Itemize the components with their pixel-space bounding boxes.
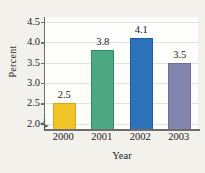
y-tick-mark	[41, 103, 45, 104]
x-tick-label: 2001	[80, 132, 124, 143]
bar	[91, 50, 114, 130]
y-tick-mark	[41, 63, 45, 64]
x-tick-label: 2000	[41, 132, 85, 143]
y-tick-mark	[41, 83, 45, 84]
y-axis-title: Percent	[7, 34, 18, 90]
y-tick-mark	[41, 42, 45, 43]
axis-break-icon	[40, 119, 49, 130]
y-tick-mark	[41, 22, 45, 23]
chart-title	[28, 0, 178, 3]
y-tick-label: 2.0	[27, 119, 40, 130]
bar-value-label: 2.5	[44, 90, 84, 101]
bar	[130, 38, 153, 130]
bar-value-label: 4.1	[121, 25, 161, 36]
y-tick-label: 4.5	[27, 17, 40, 28]
x-axis-title: Year	[44, 150, 200, 161]
bar-value-label: 3.8	[83, 37, 123, 48]
plot-area: 2.02.53.03.54.04.52.53.84.13.5	[44, 17, 198, 130]
y-tick-label: 2.5	[27, 98, 40, 109]
y-tick-label: 4.0	[27, 37, 40, 48]
gridline	[45, 22, 199, 23]
bar-chart-figure: Percent 2.02.53.03.54.04.52.53.84.13.5 2…	[0, 0, 205, 173]
bar	[168, 63, 191, 130]
y-tick-label: 3.5	[27, 57, 40, 68]
y-tick-label: 3.0	[27, 78, 40, 89]
bar-value-label: 3.5	[160, 50, 200, 61]
x-tick-label: 2003	[157, 132, 201, 143]
bar	[53, 103, 76, 130]
x-tick-label: 2002	[118, 132, 162, 143]
